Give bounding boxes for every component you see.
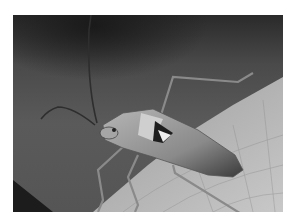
antenna: [89, 15, 97, 123]
insect-photo: [13, 15, 283, 212]
antenna: [41, 107, 95, 125]
photo-content: [13, 15, 283, 212]
